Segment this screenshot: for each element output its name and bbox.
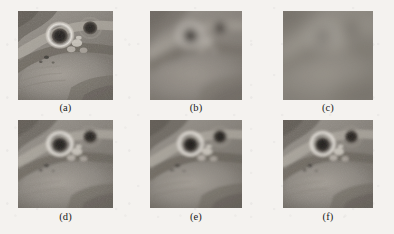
panel-image-c: [283, 11, 373, 100]
panel-image-f: [283, 120, 373, 208]
panel-image-container-e: [150, 120, 242, 208]
panel-caption-e: (e): [150, 211, 242, 223]
figure-image-grid: (a): [0, 0, 394, 234]
panel-e: [150, 120, 242, 208]
panel-image-e: [150, 120, 242, 208]
panel-image-container-b: [150, 11, 242, 100]
panel-image-container-f: [283, 120, 373, 208]
panel-caption-d: (d): [18, 211, 113, 223]
panel-caption-f: (f): [283, 211, 373, 223]
panel-a: [18, 11, 113, 100]
panel-image-d: [18, 120, 113, 208]
panel-image-container-a: [18, 11, 113, 100]
panel-image-container-c: [283, 11, 373, 100]
panel-f: [283, 120, 373, 208]
panel-caption-b: (b): [150, 102, 242, 114]
panel-image-a: [18, 11, 113, 100]
panel-caption-c: (c): [283, 102, 373, 114]
panel-image-container-d: [18, 120, 113, 208]
panel-c: [283, 11, 373, 100]
panel-b: [150, 11, 242, 100]
panel-caption-a: (a): [18, 102, 113, 114]
panel-image-b: [150, 11, 242, 100]
panel-d: [18, 120, 113, 208]
